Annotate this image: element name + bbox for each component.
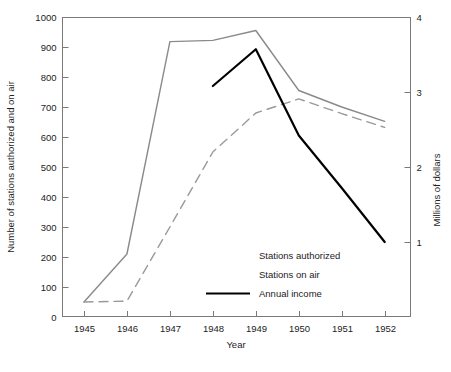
y-tick-label: 500 <box>41 162 57 173</box>
x-tick-label: 1950 <box>289 323 310 334</box>
chart-figure: 01002003004005006007008009001000 1234 19… <box>0 0 451 372</box>
y-axis-right-title: Millions of dollars <box>431 153 442 226</box>
y-tick-label: 0 <box>51 312 56 323</box>
x-tick-label: 1946 <box>117 323 138 334</box>
y-tick-label: 800 <box>41 72 57 83</box>
y-tick-label: 400 <box>41 192 57 203</box>
legend-label: Annual income <box>259 288 322 299</box>
legend-label: Stations on air <box>259 269 320 280</box>
x-axis-title: Year <box>226 339 245 350</box>
y2-tick-label: 2 <box>417 162 422 173</box>
x-tick-label: 1948 <box>203 323 224 334</box>
y-tick-label: 900 <box>41 42 57 53</box>
x-tick-label: 1945 <box>74 323 95 334</box>
y-tick-label: 1000 <box>35 12 56 23</box>
y-axis-left-title: Number of stations authorized and on air <box>5 81 16 253</box>
y2-tick-label: 3 <box>417 87 422 98</box>
y2-tick-label: 4 <box>417 12 422 23</box>
line-chart: 01002003004005006007008009001000 1234 19… <box>0 0 451 372</box>
y-tick-label: 600 <box>41 132 57 143</box>
y2-tick-label: 1 <box>417 237 422 248</box>
x-tick-label: 1951 <box>332 323 353 334</box>
legend-label: Stations authorized <box>259 250 340 261</box>
y-tick-label: 200 <box>41 252 57 263</box>
y-tick-label: 300 <box>41 222 57 233</box>
x-tick-label: 1947 <box>160 323 181 334</box>
y-tick-label: 100 <box>41 282 57 293</box>
x-tick-label: 1949 <box>246 323 267 334</box>
y-tick-label: 700 <box>41 102 57 113</box>
x-tick-label: 1952 <box>375 323 396 334</box>
